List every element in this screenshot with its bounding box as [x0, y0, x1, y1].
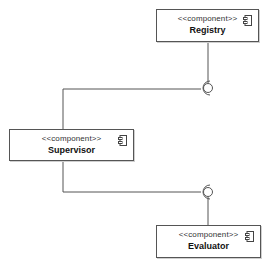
component-registry[interactable]: <<component>> Registry [156, 9, 259, 42]
component-icon [118, 135, 127, 146]
component-name: Registry [157, 25, 258, 35]
supervisor-to-registry-line [63, 89, 201, 129]
component-icon [245, 231, 254, 242]
component-icon [243, 15, 252, 26]
evaluator-provided-ball [204, 188, 213, 197]
component-name: Supervisor [10, 145, 133, 155]
registry-provided-ball [204, 84, 213, 93]
component-supervisor[interactable]: <<component>> Supervisor [9, 129, 134, 161]
supervisor-to-evaluator-line [63, 160, 201, 192]
component-evaluator[interactable]: <<component>> Evaluator [156, 225, 261, 258]
component-name: Evaluator [157, 241, 260, 251]
stereotype-label: <<component>> [10, 134, 133, 143]
